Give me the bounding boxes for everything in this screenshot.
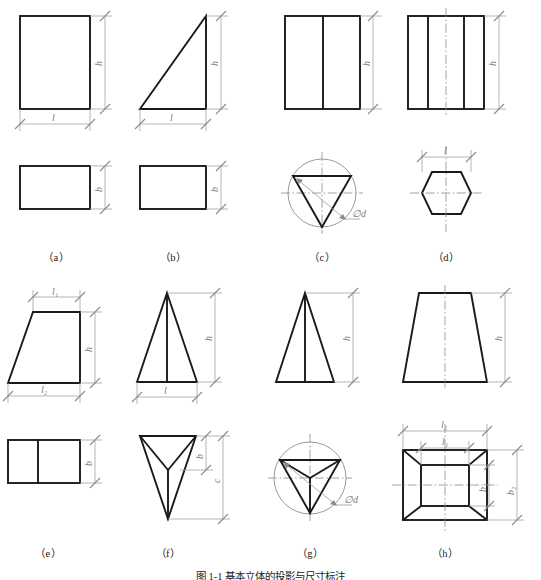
panel-label-e: （e）: [18, 545, 78, 560]
panel-a-label-b: b: [93, 187, 104, 192]
panel-label-d: （d）: [416, 249, 476, 264]
engineering-drawing-sheet: .obj{fill:none;stroke:#1a1a1a;stroke-wid…: [0, 0, 541, 580]
panel-b: h l b: [135, 11, 228, 214]
panel-h-label-b1: b₁: [477, 484, 488, 492]
panel-d-label-l: l: [444, 145, 447, 156]
panel-e-label-b: b: [83, 461, 94, 466]
panel-label-g: （g）: [280, 545, 340, 560]
panel-f-label-b: b: [194, 454, 205, 459]
panel-label-b: （b）: [143, 249, 203, 264]
drawing-canvas: .obj{fill:none;stroke:#1a1a1a;stroke-wid…: [0, 0, 541, 580]
panel-b-top-rectangle: [140, 166, 206, 209]
panel-h-label-l2: l₂: [441, 419, 448, 430]
panel-b-front-triangle: [140, 16, 206, 109]
panel-d: h l: [408, 8, 506, 232]
panel-label-f: （f）: [138, 545, 198, 560]
panel-h-label-b2: b₂: [505, 486, 516, 495]
panel-label-h: （h）: [415, 545, 475, 560]
panel-f-top-edge-right: [168, 436, 196, 470]
panel-h-top-diag-bl: [403, 506, 421, 520]
panel-g-label-diameter: ∅d: [344, 494, 359, 505]
panel-e-label-l2: l₂: [41, 384, 48, 395]
panel-h-top-diag-tl: [403, 450, 421, 465]
panel-a-label-l: l: [52, 112, 55, 123]
panel-a-top-rectangle: [20, 166, 90, 209]
panel-b-label-b: b: [209, 187, 220, 192]
panel-b-label-h: h: [209, 61, 220, 66]
panel-e-label-h: h: [83, 347, 94, 352]
panel-f-label-h: h: [203, 336, 214, 341]
panel-c-label-diameter: ∅d: [352, 208, 367, 219]
panel-label-c: （c）: [292, 249, 352, 264]
panel-c: h ∅d: [281, 11, 382, 234]
panel-a: h l b: [15, 11, 112, 214]
figure-caption: 图 1-1 基本立体的投影与尺寸标注: [0, 571, 541, 580]
panel-f: h l b c: [132, 288, 230, 524]
panel-f-top-edge-left: [140, 436, 168, 470]
panel-g-label-h: h: [341, 336, 352, 341]
panel-d-label-h: h: [487, 61, 498, 66]
panel-f-label-l: l: [164, 385, 167, 396]
panel-a-front-rectangle: [20, 16, 90, 109]
panel-g: h ∅d: [268, 288, 360, 522]
panel-h-label-h: h: [493, 336, 504, 341]
panel-f-label-c: c: [211, 478, 222, 483]
panel-b-label-l: l: [170, 112, 173, 123]
panel-e-label-l1: l₁: [52, 286, 58, 297]
panel-e-top-rectangle: [8, 440, 80, 483]
panel-h-top-diag-tr: [469, 450, 487, 465]
panel-h-label-l1: l₁: [442, 436, 448, 447]
panel-c-label-h: h: [361, 61, 372, 66]
panel-e: l₁ h l₂ b: [3, 286, 102, 488]
panel-h-top-diag-br: [469, 506, 487, 520]
panel-label-a: （a）: [26, 249, 86, 264]
panel-h: h l₂ l₁ b₁ b₂: [392, 285, 524, 532]
panel-e-front-trapezoid: [8, 312, 80, 383]
panel-a-label-h: h: [93, 61, 104, 66]
